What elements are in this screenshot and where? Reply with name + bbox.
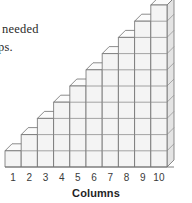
x-tick-label-10: 10 [149, 172, 169, 183]
cube-stack-group [5, 0, 174, 167]
figure-page: needed ps. 12345678910 Columns [0, 0, 192, 203]
x-axis-title: Columns [0, 187, 192, 199]
